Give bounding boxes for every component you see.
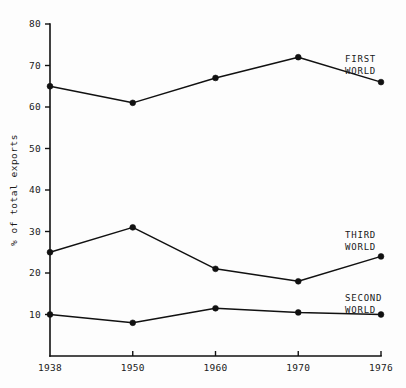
x-tick-label-group: 19381950196019701976 bbox=[38, 362, 393, 373]
x-tick-label-1950: 1950 bbox=[121, 362, 145, 373]
y-tick-label-10: 10 bbox=[29, 309, 41, 320]
series-group bbox=[47, 54, 384, 325]
series-label-group: FIRSTWORLDTHIRDWORLDSECONDWORLD bbox=[345, 54, 382, 314]
data-point-first-world-1976 bbox=[378, 79, 384, 85]
line-chart: 1020304050607080 19381950196019701976 FI… bbox=[0, 0, 406, 388]
y-tick-label-20: 20 bbox=[29, 267, 41, 278]
series-label-second-world-line2: WORLD bbox=[345, 305, 376, 315]
data-point-third-world-1950 bbox=[130, 224, 136, 230]
series-label-third-world-line2: WORLD bbox=[345, 242, 376, 252]
data-point-second-world-1970 bbox=[295, 310, 301, 316]
data-point-third-world-1970 bbox=[295, 278, 301, 284]
x-tick-label-1976: 1976 bbox=[369, 362, 393, 373]
series-label-first-world-line1: FIRST bbox=[345, 54, 376, 64]
data-point-third-world-1976 bbox=[378, 254, 384, 260]
series-label-third-world-line1: THIRD bbox=[345, 230, 376, 240]
data-point-first-world-1938 bbox=[47, 83, 53, 89]
y-tick-label-40: 40 bbox=[29, 184, 41, 195]
y-tick-label-50: 50 bbox=[29, 143, 41, 154]
y-tick-label-30: 30 bbox=[29, 226, 41, 237]
y-axis-title: % of total exports bbox=[8, 134, 19, 246]
data-point-first-world-1970 bbox=[295, 54, 301, 60]
x-tick-label-1960: 1960 bbox=[203, 362, 227, 373]
data-point-second-world-1950 bbox=[130, 320, 136, 326]
x-axis: 19381950196019701976 bbox=[38, 351, 393, 373]
data-point-second-world-1938 bbox=[47, 312, 53, 318]
y-axis: 1020304050607080 bbox=[29, 18, 50, 356]
series-label-first-world-line2: WORLD bbox=[345, 66, 376, 76]
data-point-first-world-1960 bbox=[213, 75, 219, 81]
x-tick-label-1938: 1938 bbox=[38, 362, 62, 373]
data-point-third-world-1960 bbox=[213, 266, 219, 272]
y-tick-label-70: 70 bbox=[29, 60, 41, 71]
y-tick-label-80: 80 bbox=[29, 18, 41, 29]
chart-canvas: 1020304050607080 19381950196019701976 FI… bbox=[0, 0, 406, 388]
y-tick-label-group: 1020304050607080 bbox=[29, 18, 41, 320]
data-point-third-world-1938 bbox=[47, 249, 53, 255]
data-point-second-world-1976 bbox=[378, 312, 384, 318]
y-tick-label-60: 60 bbox=[29, 101, 41, 112]
series-label-second-world-line1: SECOND bbox=[345, 293, 382, 303]
series-line-third-world bbox=[50, 227, 381, 281]
data-point-first-world-1950 bbox=[130, 100, 136, 106]
data-point-second-world-1960 bbox=[213, 305, 219, 311]
x-tick-label-1970: 1970 bbox=[286, 362, 310, 373]
